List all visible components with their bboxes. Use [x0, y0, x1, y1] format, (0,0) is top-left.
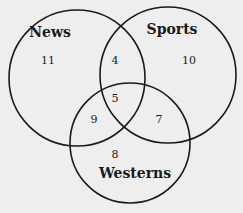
sports-label: Sports: [147, 21, 198, 37]
all-three-count: 5: [112, 92, 119, 105]
westerns-only-count: 8: [112, 148, 119, 161]
news-only-count: 11: [41, 54, 55, 67]
westerns-label: Westerns: [98, 165, 171, 181]
news-label: News: [29, 24, 71, 40]
venn-diagram: News Sports Westerns 11 10 8 4 9 7 5: [0, 0, 243, 213]
news-westerns-count: 9: [91, 113, 98, 126]
news-sports-count: 4: [112, 54, 119, 67]
sports-westerns-count: 7: [156, 113, 163, 126]
sports-only-count: 10: [182, 54, 196, 67]
